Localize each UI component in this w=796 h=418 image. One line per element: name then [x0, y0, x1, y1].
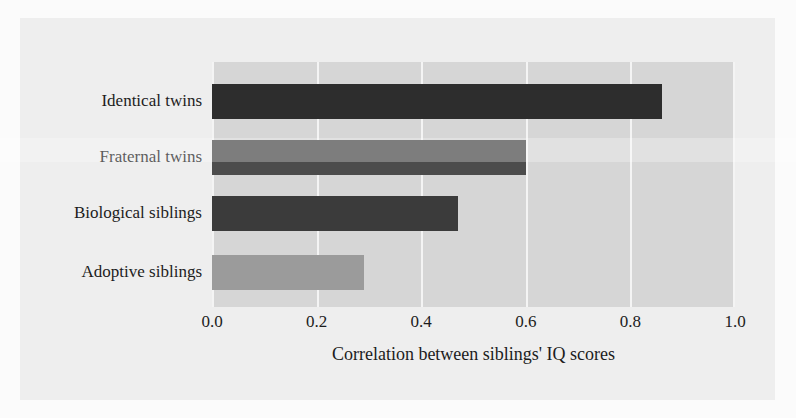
bar-biological-siblings [212, 196, 458, 231]
category-label-biological-siblings: Biological siblings [2, 203, 202, 223]
x-axis-tick-labels: 0.0 0.2 0.4 0.6 0.8 1.0 [212, 312, 735, 338]
bar-adoptive-siblings [212, 255, 364, 290]
x-axis-title: Correlation between siblings' IQ scores [212, 344, 735, 365]
x-tick-label: 0.8 [620, 312, 641, 332]
bar-identical-twins [212, 84, 662, 119]
gridline [733, 62, 735, 307]
plot-area [212, 62, 735, 307]
category-label-identical-twins: Identical twins [2, 91, 202, 111]
x-tick-label: 1.0 [724, 312, 745, 332]
x-tick-label: 0.2 [306, 312, 327, 332]
category-label-fraternal-twins: Fraternal twins [2, 147, 202, 167]
x-tick-label: 0.0 [201, 312, 222, 332]
figure-root: Identical twins Fraternal twins Biologic… [0, 0, 796, 418]
category-axis-labels: Identical twins Fraternal twins Biologic… [0, 62, 202, 307]
bar-fraternal-twins [212, 140, 526, 175]
category-label-adoptive-siblings: Adoptive siblings [2, 262, 202, 282]
x-tick-label: 0.6 [515, 312, 536, 332]
x-tick-label: 0.4 [411, 312, 432, 332]
